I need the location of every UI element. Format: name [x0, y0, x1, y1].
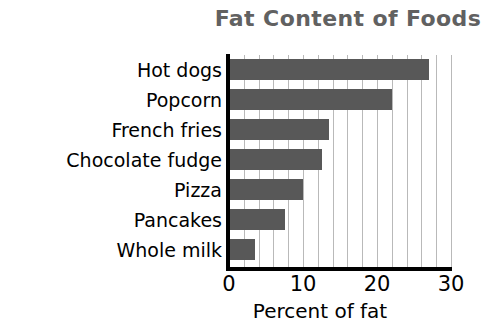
x-tick-label: 20: [347, 272, 407, 296]
y-axis-line: [226, 54, 230, 270]
category-label: Pizza: [30, 175, 222, 205]
category-label: Popcorn: [30, 85, 222, 115]
bar: [229, 119, 329, 140]
x-tick-label: 0: [199, 272, 259, 296]
x-tick-label: 30: [421, 272, 481, 296]
bar-row: [229, 235, 451, 265]
bar-row: [229, 115, 451, 145]
category-label: Pancakes: [30, 205, 222, 235]
bar: [229, 89, 392, 110]
bar-chart: Fat Content of Foods Hot dogsPopcornFren…: [0, 0, 498, 331]
category-axis-labels: Hot dogsPopcornFrench friesChocolate fud…: [30, 55, 222, 268]
bar-row: [229, 205, 451, 235]
bar: [229, 239, 255, 260]
gridline: [451, 55, 452, 268]
x-axis-title: Percent of fat: [200, 299, 440, 323]
chart-title: Fat Content of Foods: [198, 2, 498, 36]
category-label: French fries: [30, 115, 222, 145]
bar-row: [229, 145, 451, 175]
bar-row: [229, 85, 451, 115]
bar-row: [229, 175, 451, 205]
category-label: Hot dogs: [30, 55, 222, 85]
bar: [229, 209, 285, 230]
bar-row: [229, 55, 451, 85]
bar: [229, 59, 429, 80]
category-label: Whole milk: [30, 235, 222, 265]
x-axis-line: [226, 267, 452, 271]
plot-area: [229, 55, 451, 268]
x-axis-tick-labels: 0102030: [0, 272, 498, 300]
bar: [229, 149, 322, 170]
x-tick-label: 10: [273, 272, 333, 296]
category-label: Chocolate fudge: [30, 145, 222, 175]
bar: [229, 179, 303, 200]
bars-layer: [229, 55, 451, 268]
